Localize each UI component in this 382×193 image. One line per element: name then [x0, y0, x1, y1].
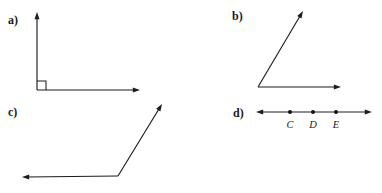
figure-a-right-angle-marker-icon	[37, 81, 46, 90]
figure-d-point-e	[334, 110, 338, 114]
figure-c-horizontal-ray-arrowhead-icon	[22, 174, 29, 179]
figure-label-a: a)	[8, 14, 18, 26]
figure-d-left-arrowhead-icon	[256, 110, 263, 115]
figure-b-diagonal-ray	[258, 15, 301, 87]
figure-label-d: d)	[233, 107, 244, 119]
figure-a-horizontal-ray-arrowhead-icon	[133, 88, 140, 93]
figure-c-horizontal-ray	[26, 176, 118, 177]
figure-b-diagonal-ray-arrowhead-icon	[297, 11, 303, 18]
figure-d-point-c	[288, 110, 292, 114]
figure-sheet: a)b)c)d)CDE	[0, 0, 382, 193]
figure-d	[256, 110, 372, 115]
figure-label-c: c)	[8, 106, 17, 118]
point-label-d: D	[303, 120, 323, 131]
figure-b-horizontal-ray-arrowhead-icon	[334, 85, 341, 90]
point-label-c: C	[280, 120, 300, 131]
geometry-figures-canvas	[0, 0, 382, 193]
figure-c-diagonal-ray-arrowhead-icon	[156, 104, 162, 111]
figure-c-diagonal-ray	[118, 108, 160, 176]
figure-b	[258, 11, 341, 90]
figure-d-point-d	[311, 110, 315, 114]
figure-label-b: b)	[232, 10, 243, 22]
figure-d-right-arrowhead-icon	[365, 110, 372, 115]
figure-a	[35, 12, 141, 93]
point-label-e: E	[326, 120, 346, 131]
figure-c	[22, 104, 162, 179]
figure-a-vertical-ray-arrowhead-icon	[35, 12, 40, 19]
